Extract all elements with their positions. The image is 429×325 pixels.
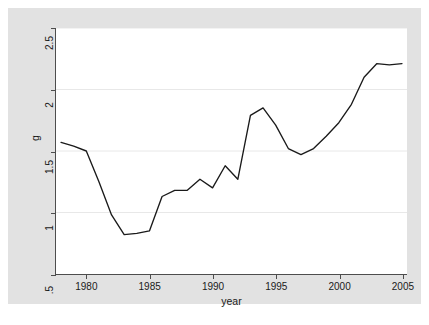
x-tick-mark: [403, 274, 404, 279]
x-tick-mark: [150, 274, 151, 279]
line-chart-svg: [56, 28, 407, 274]
chart-figure: .511.522.5 198019851990199520002005 g ye…: [8, 8, 421, 304]
x-tick-label: 1980: [75, 281, 97, 292]
x-axis-title: year: [221, 295, 241, 307]
x-tick-label: 1995: [265, 281, 287, 292]
y-axis-title: g: [29, 123, 41, 153]
x-tick-label: 2000: [329, 281, 351, 292]
plot-area: .511.522.5 198019851990199520002005 g ye…: [55, 28, 407, 275]
y-tick-label: 1: [45, 213, 55, 243]
x-tick-mark: [86, 274, 87, 279]
gridlines: [56, 28, 407, 213]
x-tick-mark: [276, 274, 277, 279]
x-tick-mark: [213, 274, 214, 279]
y-tick-label: 2.5: [45, 28, 55, 58]
x-tick-label: 2005: [392, 281, 414, 292]
x-tick-label: 1990: [202, 281, 224, 292]
x-tick-mark: [340, 274, 341, 279]
y-tick-label: .5: [45, 275, 55, 305]
y-tick-label: 2: [45, 90, 55, 120]
y-tick-label: 1.5: [45, 152, 55, 182]
x-tick-label: 1985: [139, 281, 161, 292]
